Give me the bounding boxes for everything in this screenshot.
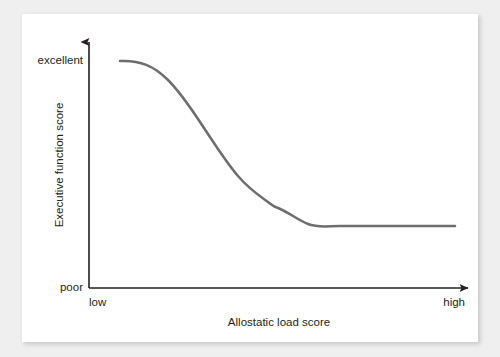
- x-axis-left-label: low: [89, 296, 107, 308]
- chart-canvas: excellent poor low high Allostatic load …: [22, 14, 478, 342]
- executive-function-curve: [120, 61, 455, 227]
- x-axis-title: Allostatic load score: [228, 316, 330, 328]
- y-axis-top-label: excellent: [38, 54, 84, 66]
- y-axis-bottom-label: poor: [60, 281, 83, 293]
- y-axis-title: Executive function score: [53, 103, 65, 228]
- figure-card: excellent poor low high Allostatic load …: [22, 14, 478, 342]
- x-axis-right-label: high: [443, 296, 465, 308]
